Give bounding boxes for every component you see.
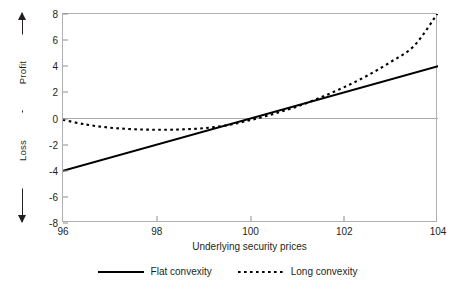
y-tick-label: 6	[52, 35, 58, 46]
x-tick-label: 98	[151, 226, 162, 237]
x-tick-mark	[250, 216, 251, 221]
chart-figure: Profit Loss 86420-2-4-6-8 9698100102104 …	[0, 0, 455, 291]
plot-canvas	[63, 14, 438, 223]
x-tick-label: 104	[430, 226, 447, 237]
x-tick-label: 100	[242, 226, 259, 237]
series-line-long-convexity	[63, 14, 438, 130]
y-tick-label: 2	[52, 87, 58, 98]
y-tick-mark	[63, 14, 68, 15]
legend-swatch-solid	[98, 267, 144, 277]
y-tick-label: -2	[49, 139, 58, 150]
legend-label-long-convexity: Long convexity	[291, 266, 358, 277]
x-tick-label: 102	[336, 226, 353, 237]
y-tick-label: -4	[49, 165, 58, 176]
x-tick-label: 96	[57, 226, 68, 237]
y-tick-label: 4	[52, 61, 58, 72]
x-axis-title: Underlying security prices	[62, 241, 437, 252]
y-tick-mark	[63, 92, 68, 93]
x-tick-mark	[156, 216, 157, 221]
y-tick-mark	[63, 40, 68, 41]
y-tick-label: 8	[52, 9, 58, 20]
y-tick-mark	[63, 223, 68, 224]
y-tick-mark	[63, 170, 68, 171]
y-tick-mark	[63, 196, 68, 197]
legend-label-flat-convexity: Flat convexity	[151, 266, 212, 277]
arrow-down-icon	[18, 215, 26, 223]
y-axis-profit-label: Profit	[15, 35, 30, 111]
y-axis-annotation: Profit Loss	[6, 13, 40, 222]
chart-legend: Flat convexity Long convexity	[0, 266, 455, 277]
y-axis-loss-label: Loss	[15, 113, 30, 189]
y-tick-mark	[63, 144, 68, 145]
plot-area: 86420-2-4-6-8 9698100102104	[62, 13, 437, 222]
y-tick-mark	[63, 118, 68, 119]
y-tick-label: 0	[52, 113, 58, 124]
legend-item-long-convexity: Long convexity	[238, 266, 358, 277]
legend-item-flat-convexity: Flat convexity	[98, 266, 212, 277]
y-tick-label: -6	[49, 191, 58, 202]
legend-swatch-dotted	[238, 267, 284, 277]
arrow-up-icon	[18, 12, 26, 20]
x-tick-mark	[344, 216, 345, 221]
y-tick-mark	[63, 66, 68, 67]
